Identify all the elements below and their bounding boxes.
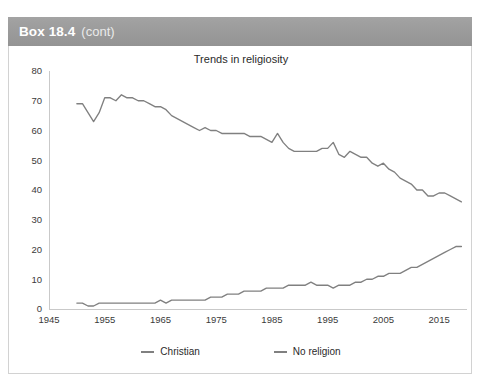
y-tick-label: 10 [31,274,42,285]
legend-swatch-no-religion [274,351,287,353]
y-tick-label: 70 [31,95,42,106]
figure-frame: Trends in religiosity 010203040506070801… [8,46,472,374]
box-title: Box 18.4 [19,24,75,39]
x-tick-label: 1975 [206,314,227,325]
x-tick-label: 1955 [94,314,115,325]
legend-swatch-christian [141,351,154,353]
page-root: Box 18.4 (cont) Trends in religiosity 01… [0,0,479,382]
x-tick-label: 2005 [373,314,394,325]
box-header: Box 18.4 (cont) [8,17,472,46]
x-tick-label: 1945 [38,314,59,325]
y-tick-label: 80 [31,65,42,76]
y-tick-label: 30 [31,214,42,225]
legend-label-no-religion: No religion [293,346,341,357]
series-line-christian [77,95,462,202]
y-tick-label: 20 [31,244,42,255]
legend-item-christian: Christian [141,346,199,357]
religiosity-line-chart: 0102030405060708019451955196519751985199… [9,46,473,346]
legend-item-no-religion: No religion [274,346,341,357]
x-tick-label: 1985 [261,314,282,325]
y-tick-label: 50 [31,155,42,166]
x-tick-label: 2015 [429,314,450,325]
y-tick-label: 40 [31,184,42,195]
legend-label-christian: Christian [160,346,199,357]
x-tick-label: 1995 [317,314,338,325]
x-tick-label: 1965 [150,314,171,325]
y-tick-label: 0 [37,303,42,314]
box-continued-label: (cont) [81,24,114,39]
series-line-no-religion [77,247,462,306]
y-tick-label: 60 [31,125,42,136]
chart-legend: Christian No religion [9,346,473,357]
